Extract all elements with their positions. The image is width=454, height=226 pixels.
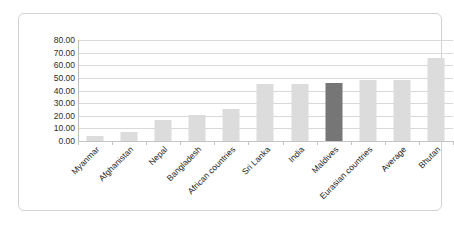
- bar-slot: [419, 40, 453, 141]
- y-axis-tick-label: 10.00: [37, 124, 75, 133]
- chart-frame: 0.0010.0020.0030.0040.0050.0060.0070.008…: [18, 13, 442, 211]
- y-axis-labels: 0.0010.0020.0030.0040.0050.0060.0070.008…: [37, 14, 75, 210]
- bar-slot: [112, 40, 146, 141]
- plot-area: [78, 40, 453, 141]
- bar: [121, 132, 138, 141]
- x-axis-category-label: Sri Lanka: [240, 145, 271, 176]
- bar-slot: [214, 40, 248, 141]
- bar-slot: [180, 40, 214, 141]
- bar-slot: [146, 40, 180, 141]
- bar-slot: [248, 40, 282, 141]
- bar: [427, 58, 444, 141]
- y-axis-tick-label: 80.00: [37, 36, 75, 45]
- y-axis-tick-label: 70.00: [37, 48, 75, 57]
- bar: [257, 84, 274, 141]
- x-axis-category-label: Maldives: [310, 145, 340, 175]
- bar: [393, 80, 410, 141]
- bar-slot: [78, 40, 112, 141]
- y-axis-tick-label: 40.00: [37, 86, 75, 95]
- bar: [325, 83, 342, 141]
- y-axis-line: [78, 40, 79, 142]
- bar-slot: [317, 40, 351, 141]
- bar: [155, 120, 172, 141]
- x-axis-category-label: Nepal: [148, 145, 170, 167]
- bar: [359, 80, 376, 141]
- y-axis-tick-label: 20.00: [37, 112, 75, 121]
- bar-slot: [351, 40, 385, 141]
- x-axis-category-label: Bhutan: [417, 145, 442, 170]
- y-axis-tick-label: 60.00: [37, 61, 75, 70]
- x-axis-labels: MyanmarAfghanistanNepalBangladeshAfrican…: [78, 145, 453, 225]
- bar: [223, 109, 240, 141]
- x-axis-category-label: Afghanistan: [97, 145, 135, 183]
- y-axis-tick-label: 30.00: [37, 99, 75, 108]
- y-axis-tick-label: 50.00: [37, 74, 75, 83]
- x-axis-category-label: India: [287, 145, 306, 164]
- bar: [189, 115, 206, 142]
- bar-slot: [283, 40, 317, 141]
- bar-slot: [385, 40, 419, 141]
- y-axis-tick-label: 0.00: [37, 137, 75, 146]
- x-axis-category-label: Average: [380, 145, 408, 173]
- bar: [291, 84, 308, 141]
- bar-series: [78, 40, 453, 141]
